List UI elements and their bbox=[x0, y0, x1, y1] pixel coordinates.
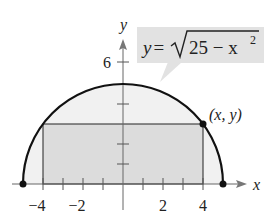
point-label: (x, y) bbox=[209, 106, 242, 124]
function-eq: = bbox=[153, 37, 164, 58]
point-xy-dot bbox=[200, 121, 207, 128]
semicircle-diagram: y= 25 − x 2 (x, y) x y −4 −2 2 4 6 bbox=[0, 0, 274, 223]
x-tick-label-2: 2 bbox=[159, 197, 167, 214]
x-tick-label-neg4: −4 bbox=[28, 197, 45, 214]
left-endpoint-dot bbox=[20, 181, 27, 188]
exponent: 2 bbox=[250, 33, 256, 47]
x-tick-label-neg2: −2 bbox=[68, 197, 85, 214]
radicand-text: 25 − x bbox=[189, 37, 238, 58]
function-lhs: y bbox=[141, 37, 152, 58]
function-label: y= bbox=[141, 37, 164, 58]
radicand: 25 − x bbox=[189, 37, 238, 58]
x-tick-label-4: 4 bbox=[199, 197, 207, 214]
y-tick-label-6: 6 bbox=[103, 54, 111, 71]
y-axis-label: y bbox=[118, 16, 128, 34]
right-endpoint-dot bbox=[220, 181, 227, 188]
x-axis-label: x bbox=[252, 176, 260, 193]
